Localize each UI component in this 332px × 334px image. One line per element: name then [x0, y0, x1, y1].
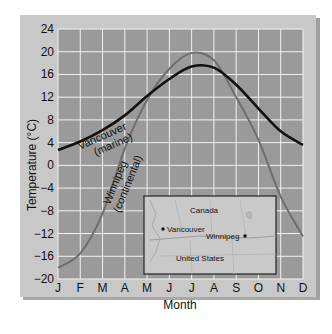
y-tick-label: −16 [34, 249, 55, 263]
x-tick-label: J [189, 281, 195, 295]
temperature-chart: 24201612840−4−8−12−16−20 JFMAMJJASOND Te… [0, 0, 332, 334]
y-tick-label: 20 [41, 45, 55, 59]
y-tick-label: −12 [34, 227, 55, 241]
y-axis-title: Temperature (°C) [25, 119, 39, 211]
x-tick-label: F [77, 281, 84, 295]
y-tick-label: 12 [41, 90, 55, 104]
y-tick-label: −20 [34, 272, 55, 286]
winnipeg-dot [243, 234, 246, 237]
y-tick-label: 16 [41, 67, 55, 81]
y-tick-label: 24 [41, 22, 55, 36]
x-tick-label: M [142, 281, 152, 295]
y-tick-label: −4 [40, 181, 54, 195]
y-tick-label: 0 [47, 158, 54, 172]
x-tick-label: J [55, 281, 61, 295]
vancouver-dot [161, 227, 164, 230]
x-tick-label: S [232, 281, 240, 295]
x-axis-ticks: JFMAMJJASOND [55, 281, 308, 295]
x-axis-title: Month [163, 298, 196, 312]
x-tick-label: M [98, 281, 108, 295]
map-label-united-states: United States [176, 254, 224, 263]
y-tick-label: 8 [47, 113, 54, 127]
x-tick-label: O [254, 281, 263, 295]
x-tick-label: A [121, 281, 129, 295]
map-label-winnipeg: Winnipeg [206, 232, 239, 241]
x-tick-label: N [276, 281, 285, 295]
map-label-canada: Canada [190, 206, 219, 215]
x-tick-label: D [299, 281, 308, 295]
map-label-vancouver: Vancouver [167, 225, 205, 234]
y-tick-label: 4 [47, 136, 54, 150]
inset-map: Canada Vancouver Winnipeg United States [144, 196, 276, 274]
x-tick-label: J [166, 281, 172, 295]
y-tick-label: −8 [40, 204, 54, 218]
x-tick-label: A [210, 281, 218, 295]
